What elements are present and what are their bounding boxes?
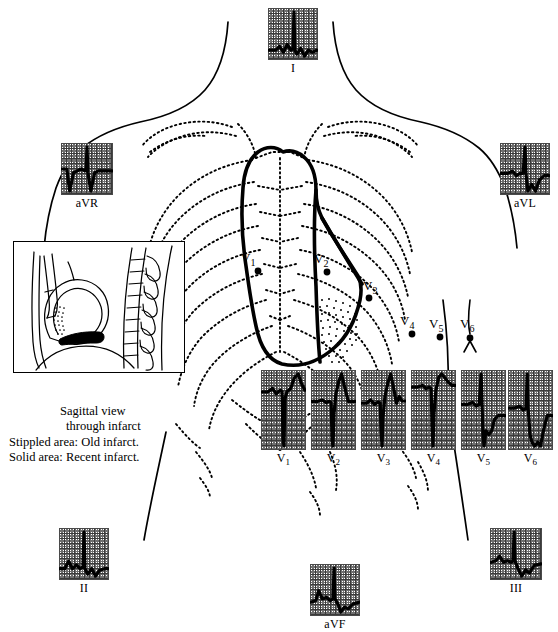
inset-legend-stippled: Stippled area: Old infarct. [9, 435, 139, 450]
ecg-waveform-aVF [310, 564, 360, 616]
ecg-strip-aVL: aVL [500, 143, 550, 211]
electrode-label-v5: V5 [429, 316, 443, 334]
ecg-grid-I [268, 8, 318, 60]
electrode-dot-v2 [324, 269, 331, 276]
ecg-label-V3: V3 [361, 451, 406, 467]
ecg-strip-V2: V2 [311, 370, 356, 467]
ecg-waveform-V4 [411, 370, 456, 450]
ecg-waveform-V6 [508, 370, 553, 450]
ecg-grid-V6 [508, 370, 553, 450]
ecg-label-III: III [490, 581, 542, 596]
ecg-grid-III [490, 528, 542, 580]
electrode-dot-v5 [437, 334, 444, 341]
ecg-label-I: I [268, 61, 318, 76]
ecg-label-V5: V5 [461, 451, 506, 467]
stippled-old-infarct-inset [53, 306, 65, 335]
ecg-label-aVF: aVF [310, 617, 360, 632]
ecg-grid-V1 [261, 370, 306, 450]
ecg-label-V2: V2 [311, 451, 356, 467]
ecg-grid-V3 [361, 370, 406, 450]
ecg-label-V4: V4 [411, 451, 456, 467]
ecg-grid-II [59, 528, 109, 580]
ecg-waveform-V2 [311, 370, 356, 450]
electrode-label-v6: V6 [460, 316, 474, 334]
ecg-waveform-V5 [461, 370, 506, 450]
ecg-strip-II: II [59, 528, 109, 596]
ecg-label-II: II [59, 581, 109, 596]
electrode-label-v4: V4 [400, 313, 414, 331]
ecg-label-aVR: aVR [61, 196, 113, 211]
sagittal-view-inset [13, 241, 185, 373]
ecg-grid-V2 [311, 370, 356, 450]
ecg-waveform-III [490, 528, 542, 580]
ecg-strip-V4: V4 [411, 370, 456, 467]
ecg-waveform-I [268, 8, 318, 60]
ecg-waveform-V1 [261, 370, 306, 450]
ecg-strip-aVR: aVR [61, 143, 113, 211]
electrode-label-v3: V3 [363, 278, 377, 296]
ecg-label-aVL: aVL [500, 196, 550, 211]
ecg-grid-aVL [500, 143, 550, 195]
ecg-strip-III: III [490, 528, 542, 596]
ecg-grid-V5 [461, 370, 506, 450]
ecg-strip-V5: V5 [461, 370, 506, 467]
ecg-waveform-V3 [361, 370, 406, 450]
ecg-strip-V6: V6 [508, 370, 553, 467]
ecg-grid-aVR [61, 143, 113, 195]
ecg-label-V1: V1 [261, 451, 306, 467]
electrode-dot-v4 [409, 331, 416, 338]
electrode-label-v1: V1 [241, 250, 255, 268]
ecg-label-V6: V6 [508, 451, 553, 467]
ecg-strip-aVF: aVF [310, 564, 360, 632]
electrode-dot-v1 [255, 268, 262, 275]
ecg-strip-V3: V3 [361, 370, 406, 467]
electrode-label-v2: V2 [314, 251, 328, 269]
ecg-waveform-aVL [500, 143, 550, 195]
ecg-strip-I: I [268, 8, 318, 76]
ecg-grid-V4 [411, 370, 456, 450]
ecg-waveform-aVR [61, 143, 113, 195]
inset-caption-line1: Sagittal view [60, 404, 126, 419]
inset-legend-solid: Solid area: Recent infarct. [9, 450, 140, 465]
inset-caption-line2: through infarct [66, 419, 141, 434]
electrode-dot-v3 [366, 295, 373, 302]
ecg-strip-V1: V1 [261, 370, 306, 467]
ecg-waveform-II [59, 528, 109, 580]
ecg-grid-aVF [310, 564, 360, 616]
figure-canvas: V1 V2 V3 V4 V5 V6 [0, 0, 558, 632]
solid-recent-infarct-inset [59, 332, 104, 345]
